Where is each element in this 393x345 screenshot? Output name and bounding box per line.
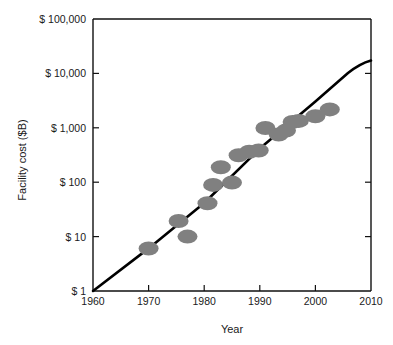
x-tick-label-1980: 1980 — [193, 295, 217, 307]
x-tick-label-2000: 2000 — [304, 295, 328, 307]
facility-cost-chart: $ 100,000 $ 10,000 $ 1,000 $ 100 $ 10 $ … — [0, 0, 393, 345]
y-tick-label-1000: $ 1,000 — [51, 122, 86, 134]
chart-background — [0, 0, 393, 345]
x-tick-label-1970: 1970 — [137, 295, 161, 307]
data-point — [222, 176, 242, 190]
x-tick-label-2010: 2010 — [359, 295, 383, 307]
data-point — [198, 196, 218, 210]
data-point — [211, 160, 231, 174]
x-tick-label-1960: 1960 — [81, 295, 105, 307]
data-point — [139, 242, 159, 256]
y-axis-title: Facility cost ($B) — [16, 119, 28, 200]
y-tick-label-10000: $ 10,000 — [45, 67, 86, 79]
data-point — [320, 102, 340, 116]
y-tick-label-100000: $ 100,000 — [39, 13, 86, 25]
data-point — [169, 214, 189, 228]
y-tick-label-10: $ 10 — [66, 231, 87, 243]
x-axis-title: Year — [221, 323, 244, 335]
x-tick-label-1990: 1990 — [248, 295, 272, 307]
data-point — [178, 230, 198, 244]
y-tick-label-100: $ 100 — [60, 176, 86, 188]
data-point — [203, 178, 223, 192]
chart-figure: $ 100,000 $ 10,000 $ 1,000 $ 100 $ 10 $ … — [0, 0, 393, 345]
data-point — [249, 144, 269, 158]
